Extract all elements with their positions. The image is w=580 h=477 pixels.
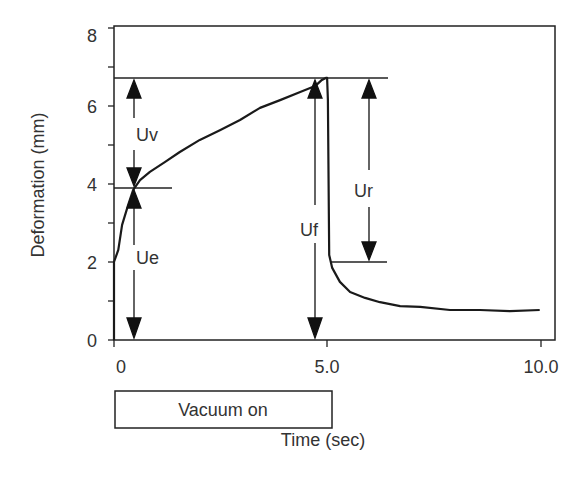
x-axis-ticks: [114, 340, 541, 347]
y-axis-label: Deformation (mm): [28, 112, 48, 257]
uf-label: Uf: [300, 220, 319, 240]
x-axis-label: Time (sec): [281, 430, 365, 450]
y-tick-label: 8: [87, 26, 97, 46]
deformation-curve: [114, 78, 540, 340]
ue-label: Ue: [136, 248, 159, 268]
deformation-chart: 0 2 4 6 8 0 5.0 10.0 Deformation (mm): [0, 0, 580, 477]
x-tick-label: 5.0: [314, 357, 339, 377]
x-tick-label: 0: [116, 357, 126, 377]
annotation-arrows: [127, 80, 376, 338]
plot-frame: [114, 26, 555, 340]
arrow-down-icon: [308, 318, 322, 338]
y-tick-label: 0: [87, 331, 97, 351]
y-tick-label: 4: [87, 175, 97, 195]
x-tick-label: 10.0: [523, 357, 558, 377]
reference-lines: [114, 78, 388, 262]
ur-label: Ur: [354, 181, 373, 201]
y-tick-label: 6: [87, 97, 97, 117]
vacuum-on-label: Vacuum on: [178, 400, 268, 420]
arrow-down-icon: [362, 242, 376, 260]
arrow-down-icon: [127, 318, 141, 338]
y-tick-label: 2: [87, 253, 97, 273]
arrow-up-icon: [127, 80, 141, 98]
arrow-up-icon: [362, 80, 376, 98]
uv-label: Uv: [136, 125, 158, 145]
